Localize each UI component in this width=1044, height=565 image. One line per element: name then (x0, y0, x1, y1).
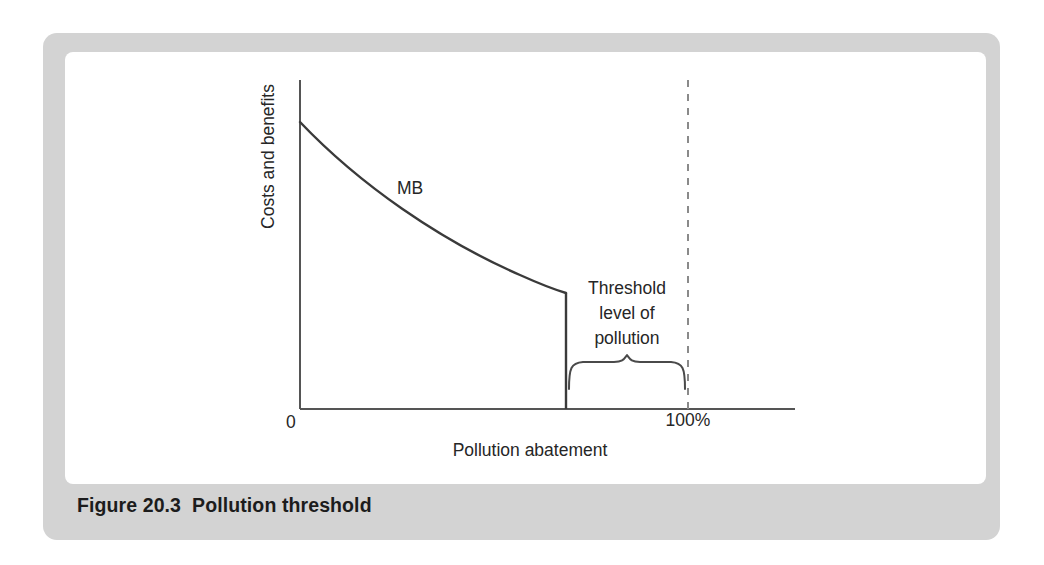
x-tick-zero: 0 (286, 412, 296, 433)
threshold-annotation-line-3: pollution (570, 326, 684, 351)
x-axis-label: Pollution abatement (400, 440, 660, 461)
figure-caption: Figure 20.3 Pollution threshold (77, 494, 372, 517)
threshold-annotation: Threshold level of pollution (570, 276, 684, 351)
figure-white-panel (65, 52, 986, 484)
threshold-annotation-line-1: Threshold (570, 276, 684, 301)
y-axis-label: Costs and benefits (258, 47, 279, 267)
figure-page: Costs and benefits Pollution abatement 0… (0, 0, 1044, 565)
threshold-annotation-line-2: level of (570, 301, 684, 326)
mb-curve-label: MB (397, 178, 423, 199)
x-tick-hundred-percent: 100% (638, 410, 738, 431)
